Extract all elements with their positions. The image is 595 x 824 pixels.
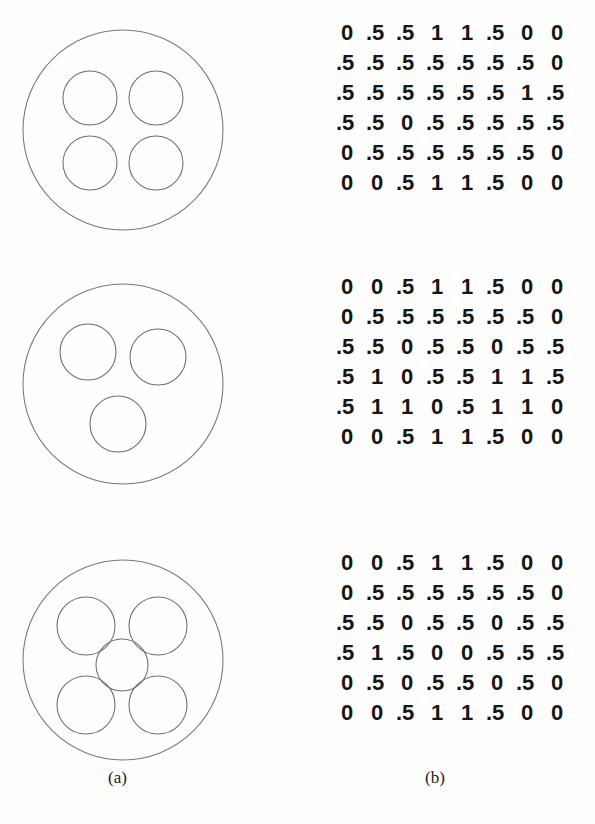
matrix-cell: 0 — [548, 698, 578, 728]
matrix-cell: 1 — [428, 272, 458, 302]
matrix-cell: 0 — [548, 302, 578, 332]
inner-circle-top-left — [57, 597, 115, 655]
matrix-cell: 0 — [338, 422, 368, 452]
matrix-cell: .5 — [458, 578, 488, 608]
matrix-cell: 1 — [518, 78, 548, 108]
matrix-cell: 0 — [428, 392, 458, 422]
matrix-cell: .5 — [488, 272, 518, 302]
matrix-grid-1: 0.5.511.500.5.5.5.5.5.5.50.5.5.5.5.5.51.… — [338, 18, 588, 248]
matrix-cell: .5 — [458, 332, 488, 362]
inner-circle-center — [96, 639, 148, 691]
matrix-cell: .5 — [518, 138, 548, 168]
matrix-cell: 0 — [368, 272, 398, 302]
matrix-cell: .5 — [428, 608, 458, 638]
matrix-cell: .5 — [428, 362, 458, 392]
matrix-cell: 0 — [368, 168, 398, 198]
inner-circle-top-right — [130, 329, 186, 385]
matrix-cell: .5 — [398, 638, 428, 668]
matrix-row: .5.50.5.50.5.5 — [338, 608, 588, 638]
matrix-cell: .5 — [428, 578, 458, 608]
matrix-row: 00.511.500 — [338, 168, 588, 198]
matrix-cell: 0 — [548, 578, 578, 608]
matrix-row: 0.5.5.5.5.5.50 — [338, 302, 588, 332]
matrix-cell: 0 — [518, 272, 548, 302]
matrix-cell: .5 — [428, 48, 458, 78]
matrix-cell: .5 — [428, 108, 458, 138]
matrix-cell: 0 — [398, 362, 428, 392]
matrix-cell: .5 — [458, 392, 488, 422]
matrix-cell: 0 — [548, 168, 578, 198]
inner-circle-top-right — [129, 597, 187, 655]
matrix-cell: .5 — [338, 48, 368, 78]
matrix-cell: 0 — [518, 168, 548, 198]
matrix-cell: .5 — [488, 18, 518, 48]
matrix-cell: 0 — [428, 638, 458, 668]
matrix-cell: .5 — [518, 608, 548, 638]
matrix-cell: 1 — [458, 18, 488, 48]
matrix-cell: 0 — [338, 168, 368, 198]
matrix-cell: 1 — [428, 548, 458, 578]
matrix-cell: .5 — [368, 332, 398, 362]
matrix-cell: .5 — [458, 668, 488, 698]
matrix-grid-2: 00.511.5000.5.5.5.5.5.50.5.50.5.50.5.5.5… — [338, 272, 588, 502]
matrix-cell: 0 — [548, 48, 578, 78]
matrix-cell: 0 — [548, 138, 578, 168]
matrix-cell: 0 — [488, 608, 518, 638]
matrix-cell: .5 — [458, 362, 488, 392]
matrix-cell: .5 — [368, 138, 398, 168]
matrix-cell: 0 — [368, 698, 398, 728]
figure-panel-row: 0.5.511.500.5.5.5.5.5.5.50.5.5.5.5.5.51.… — [0, 18, 595, 248]
matrix-cell: 0 — [338, 578, 368, 608]
matrix-row: .5110.5110 — [338, 392, 588, 422]
matrix-cell: .5 — [428, 668, 458, 698]
matrix-cell: 1 — [368, 638, 398, 668]
matrix-cell: 0 — [338, 18, 368, 48]
matrix-cell: .5 — [398, 168, 428, 198]
matrix-cell: .5 — [458, 302, 488, 332]
matrix-cell: .5 — [488, 302, 518, 332]
matrix-row: .510.5.511.5 — [338, 362, 588, 392]
matrix-cell: .5 — [518, 332, 548, 362]
matrix-cell: 0 — [338, 302, 368, 332]
matrix-cell: 0 — [398, 332, 428, 362]
matrix-cell: 0 — [518, 698, 548, 728]
matrix-cell: .5 — [518, 48, 548, 78]
matrix-cell: 0 — [548, 272, 578, 302]
matrix-cell: .5 — [368, 18, 398, 48]
matrix-cell: .5 — [548, 78, 578, 108]
inner-circle-bottom-right — [129, 136, 183, 190]
matrix-cell: 0 — [518, 548, 548, 578]
matrix-cell: .5 — [548, 362, 578, 392]
matrix-cell: 0 — [398, 668, 428, 698]
matrix-cell: 0 — [518, 18, 548, 48]
matrix-cell: .5 — [488, 48, 518, 78]
matrix-cell: .5 — [428, 302, 458, 332]
matrix-row: 0.5.5.5.5.5.50 — [338, 578, 588, 608]
matrix-cell: 1 — [518, 362, 548, 392]
matrix-row: .5.5.5.5.5.51.5 — [338, 78, 588, 108]
matrix-cell: .5 — [368, 608, 398, 638]
matrix-cell: .5 — [428, 78, 458, 108]
matrix-row: 0.5.511.500 — [338, 18, 588, 48]
matrix-cell: .5 — [428, 332, 458, 362]
matrix-cell: .5 — [488, 698, 518, 728]
matrix-cell: 1 — [458, 422, 488, 452]
matrix-row: .5.50.5.50.5.5 — [338, 332, 588, 362]
matrix-row: 0.50.5.50.50 — [338, 668, 588, 698]
matrix-cell: 1 — [368, 392, 398, 422]
matrix-cell: .5 — [548, 608, 578, 638]
matrix-cell: 1 — [458, 168, 488, 198]
matrix-cell: 1 — [428, 422, 458, 452]
matrix-cell: .5 — [428, 138, 458, 168]
caption-a: (a) — [108, 768, 127, 788]
matrix-cell: .5 — [488, 108, 518, 138]
matrix-cell: .5 — [398, 48, 428, 78]
matrix-row: 00.511.500 — [338, 548, 588, 578]
figure-page: 0.5.511.500.5.5.5.5.5.5.50.5.5.5.5.5.51.… — [0, 0, 595, 824]
matrix-row: 00.511.500 — [338, 422, 588, 452]
matrix-cell: .5 — [488, 578, 518, 608]
matrix-cell: .5 — [518, 668, 548, 698]
matrix-cell: .5 — [398, 578, 428, 608]
inner-circle-top-left — [60, 324, 116, 380]
matrix-cell: 0 — [338, 548, 368, 578]
